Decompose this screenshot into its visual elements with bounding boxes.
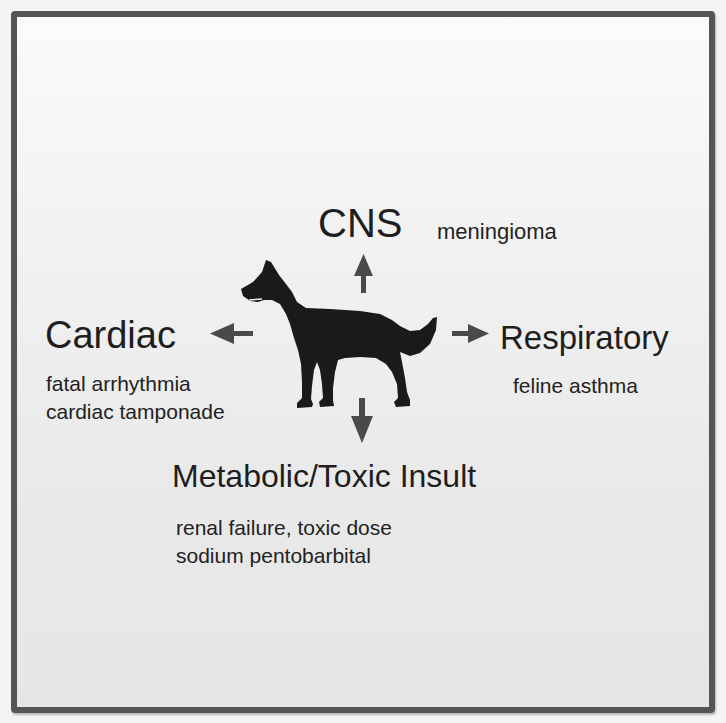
respiratory-detail: feline asthma xyxy=(513,372,638,400)
cardiac-detail-item: fatal arrhythmia xyxy=(46,370,225,398)
arrow-right-icon xyxy=(452,324,489,343)
dog-silhouette-icon xyxy=(241,260,437,408)
respiratory-title: Respiratory xyxy=(500,321,669,354)
arrow-left-icon xyxy=(210,323,253,344)
arrow-up-icon xyxy=(354,254,373,293)
metabolic-detail-item: sodium pentobarbital xyxy=(176,542,392,570)
diagram-graphics xyxy=(0,0,726,723)
arrow-down-icon xyxy=(351,398,373,443)
cardiac-detail-item: cardiac tamponade xyxy=(46,398,225,426)
metabolic-title: Metabolic/Toxic Insult xyxy=(172,460,476,492)
cns-detail: meningioma xyxy=(437,218,557,246)
metabolic-detail-item: renal failure, toxic dose xyxy=(176,514,392,542)
cns-title: CNS xyxy=(318,203,402,243)
metabolic-details: renal failure, toxic dose sodium pentoba… xyxy=(176,514,392,570)
dog-mouth-detail xyxy=(249,299,262,300)
cardiac-title: Cardiac xyxy=(45,316,176,354)
cardiac-details: fatal arrhythmia cardiac tamponade xyxy=(46,370,225,426)
